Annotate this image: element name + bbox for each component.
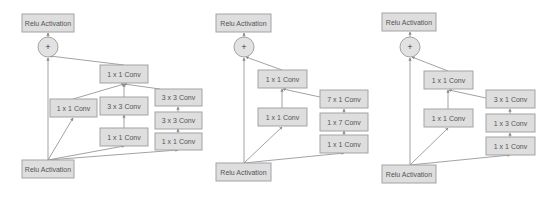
svg-text:1 x 1 Conv: 1 x 1 Conv xyxy=(432,77,466,84)
relu-activation-output: Relu Activation xyxy=(22,14,74,32)
svg-text:Relu Activation: Relu Activation xyxy=(220,169,266,176)
svg-text:1 x 3 Conv: 1 x 3 Conv xyxy=(494,120,528,127)
edge-proj-to-add xyxy=(412,57,448,71)
branch2-1x1-conv: 1 x 1 Conv xyxy=(486,137,535,155)
relu-activation-input: Relu Activation xyxy=(22,160,74,178)
edge-relu-to-b2 xyxy=(244,153,344,163)
add-node: + xyxy=(38,37,58,57)
relu-activation-output: Relu Activation xyxy=(382,13,436,31)
relu-activation-input: Relu Activation xyxy=(216,163,271,181)
branch2-1x1-conv: 1 x 1 Conv xyxy=(100,128,148,146)
edge-relu-to-b1 xyxy=(244,127,282,163)
svg-text:Relu Activation: Relu Activation xyxy=(25,166,71,173)
svg-text:1 x 7 Conv: 1 x 7 Conv xyxy=(327,119,361,126)
edge-relu-to-b1 xyxy=(410,128,448,165)
edge-relu-to-b1 xyxy=(48,118,73,160)
edge-relu-to-b2 xyxy=(410,155,510,165)
branch3-1x1-conv: 1 x 1 Conv xyxy=(155,133,202,150)
svg-text:1 x 1 Conv: 1 x 1 Conv xyxy=(266,114,300,121)
svg-text:1 x 1 Conv: 1 x 1 Conv xyxy=(266,76,300,83)
edge-b3-to-proj xyxy=(124,84,160,89)
svg-text:1 x 1 Conv: 1 x 1 Conv xyxy=(107,71,141,78)
svg-text:7 x 1 Conv: 7 x 1 Conv xyxy=(327,96,361,103)
relu-activation-input: Relu Activation xyxy=(382,165,436,183)
branch2-3x1-conv: 3 x 1 Conv xyxy=(486,90,535,108)
diagram-inception-resnet-c: Relu Activation + 1 x 1 Conv 1 x 1 Conv … xyxy=(382,13,535,183)
edge-proj-to-add xyxy=(246,57,282,70)
branch1-1x1-conv: 1 x 1 Conv xyxy=(424,109,473,127)
edge-relu-to-b3 xyxy=(48,150,178,160)
diagram-inception-resnet-b: Relu Activation + 1 x 1 Conv 1 x 1 Conv … xyxy=(216,14,368,181)
add-node: + xyxy=(400,37,420,57)
branch1-1x1-conv: 1 x 1 Conv xyxy=(50,99,97,117)
branch3-3x3-conv-top: 3 x 3 Conv xyxy=(155,89,202,106)
branch2-7x1-conv: 7 x 1 Conv xyxy=(320,90,368,108)
svg-text:1 x 1 Conv: 1 x 1 Conv xyxy=(162,138,196,145)
edge-b2-to-proj xyxy=(449,90,486,98)
branch2-1x1-conv: 1 x 1 Conv xyxy=(320,135,368,153)
relu-activation-output: Relu Activation xyxy=(216,14,271,32)
edge-proj-to-add xyxy=(50,56,124,65)
svg-text:3 x 1 Conv: 3 x 1 Conv xyxy=(494,96,528,103)
svg-text:1 x 1 Conv: 1 x 1 Conv xyxy=(494,143,528,150)
svg-text:+: + xyxy=(241,43,247,51)
svg-text:+: + xyxy=(45,43,51,51)
diagram-inception-resnet-a: Relu Activation + 1 x 1 Conv 1 x 1 Conv … xyxy=(22,14,202,178)
branch1-1x1-conv: 1 x 1 Conv xyxy=(258,108,307,126)
svg-text:3 x 3 Conv: 3 x 3 Conv xyxy=(162,117,196,124)
svg-text:1 x 1 Conv: 1 x 1 Conv xyxy=(107,134,141,141)
svg-text:3 x 3 Conv: 3 x 3 Conv xyxy=(162,94,196,101)
svg-text:Relu Activation: Relu Activation xyxy=(25,20,71,27)
inception-resnet-diagrams: Relu Activation + 1 x 1 Conv 1 x 1 Conv … xyxy=(0,0,559,198)
svg-text:Relu Activation: Relu Activation xyxy=(386,19,432,26)
svg-text:Relu Activation: Relu Activation xyxy=(386,171,432,178)
branch2-1x7-conv: 1 x 7 Conv xyxy=(320,113,368,131)
branch2-3x3-conv: 3 x 3 Conv xyxy=(100,97,148,115)
svg-text:Relu Activation: Relu Activation xyxy=(220,20,266,27)
svg-text:1 x 1 Conv: 1 x 1 Conv xyxy=(57,105,91,112)
projection-1x1-conv: 1 x 1 Conv xyxy=(424,71,473,89)
svg-text:1 x 1 Conv: 1 x 1 Conv xyxy=(432,115,466,122)
add-node: + xyxy=(234,37,254,57)
branch2-1x3-conv: 1 x 3 Conv xyxy=(486,114,535,132)
projection-1x1-conv: 1 x 1 Conv xyxy=(258,70,307,88)
branch3-3x3-conv-mid: 3 x 3 Conv xyxy=(155,112,202,129)
edge-b2-to-proj xyxy=(283,89,320,97)
projection-1x1-conv: 1 x 1 Conv xyxy=(100,65,148,83)
svg-text:+: + xyxy=(407,43,413,51)
svg-text:3 x 3 Conv: 3 x 3 Conv xyxy=(107,103,141,110)
svg-text:1 x 1 Conv: 1 x 1 Conv xyxy=(327,141,361,148)
edge-relu-to-b2 xyxy=(48,146,124,160)
